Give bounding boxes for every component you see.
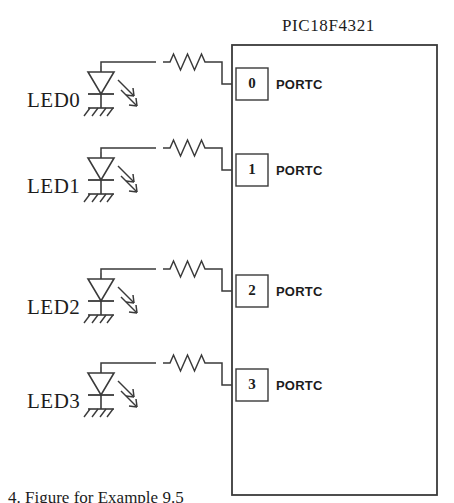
led-symbol-3: [84, 367, 137, 417]
port-label-0: PORTC: [276, 77, 323, 92]
led-symbol-2: [84, 273, 137, 323]
port-label-3: PORTC: [276, 378, 323, 393]
chip-body: [232, 45, 437, 495]
led-label-2: LED2: [27, 295, 80, 320]
led-label-0: LED0: [27, 88, 80, 113]
wire-led2-right: [215, 269, 232, 291]
resistor-2: [163, 261, 215, 277]
led-symbol-0: [84, 66, 137, 116]
wire-led1-left: [101, 148, 156, 152]
wire-led0-right: [215, 62, 232, 84]
wire-led3-right: [215, 363, 232, 385]
pin-number-1: 1: [236, 161, 268, 178]
figure-caption: 4. Figure for Example 9.5: [0, 487, 454, 503]
figure-canvas: PIC18F4321 LED0 LED1 LED2 LED3 0 1 2 3 P…: [0, 0, 454, 503]
resistor-1: [163, 140, 215, 156]
led-label-1: LED1: [27, 174, 80, 199]
wire-led3-left: [101, 363, 156, 367]
port-label-1: PORTC: [276, 163, 323, 178]
chip-title: PIC18F4321: [282, 16, 375, 36]
wire-led2-left: [101, 269, 156, 273]
wire-led0-left: [101, 62, 156, 66]
circuit-schematic: [0, 0, 454, 503]
wire-led1-right: [215, 148, 232, 170]
pin-number-2: 2: [236, 282, 268, 299]
resistor-3: [163, 355, 215, 371]
led-label-3: LED3: [27, 389, 80, 414]
pin-number-0: 0: [236, 75, 268, 92]
resistor-0: [163, 54, 215, 70]
port-label-2: PORTC: [276, 284, 323, 299]
led-symbol-1: [84, 152, 137, 202]
pin-number-3: 3: [236, 376, 268, 393]
